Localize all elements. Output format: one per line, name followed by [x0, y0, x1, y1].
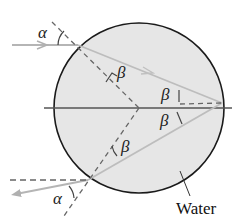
beta-back-upper-label: β — [160, 85, 170, 104]
alpha-in-label: α — [38, 23, 48, 42]
water-label: Water — [176, 199, 216, 218]
beta-exit-label: β — [120, 137, 130, 156]
alpha-in-arc — [58, 31, 64, 45]
beta-entry-label: β — [116, 63, 126, 82]
outgoing-ray — [16, 180, 88, 194]
droplet-diagram: α β β β β α Water — [0, 0, 238, 220]
beta-back-lower-label: β — [159, 111, 169, 130]
alpha-out-label: α — [53, 189, 63, 208]
alpha-out-arc — [69, 186, 74, 198]
